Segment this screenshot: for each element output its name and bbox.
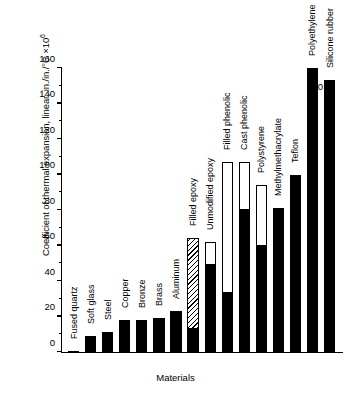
y-axis-tick-label: 160 [39, 54, 55, 64]
bar: Aluminum [170, 311, 181, 352]
bar-value-annotation: 300 [307, 82, 323, 92]
bar-label: Copper [120, 279, 129, 309]
bar: Filled phenolic [222, 162, 233, 352]
bar-label: Brass [154, 283, 163, 306]
bar-label: Polystyrene [257, 126, 266, 173]
bar: Polystyrene [256, 185, 267, 352]
bar: Steel [102, 332, 113, 352]
bar-solid-segment [307, 68, 318, 352]
y-axis-tick-label: 20 [44, 302, 55, 312]
bar-label: Filled epoxy [189, 178, 198, 226]
y-axis-tick-label: 80 [44, 196, 55, 206]
bar-series: Fused quartzSoft glassSteelCopperBronzeB… [62, 68, 343, 352]
bar-label: Soft glass [86, 285, 95, 325]
bar-solid-segment [290, 175, 301, 353]
bar: Fused quartz [68, 351, 79, 353]
bar: Silicone rubber300 [324, 80, 335, 352]
bar: Polyethylene [307, 68, 318, 352]
bar-solid-segment [170, 311, 181, 352]
bar-solid-segment [256, 246, 267, 353]
bar-label: Steel [103, 300, 112, 321]
bar-label: Aluminum [171, 259, 180, 299]
bar-solid-segment [102, 332, 113, 352]
bar: Soft glass [85, 336, 96, 352]
y-axis-tick-label: 100 [39, 160, 55, 170]
y-axis-tick-label: 40 [44, 267, 55, 277]
bar-solid-segment [187, 329, 198, 352]
y-axis-title-text: Coefficient of thermal expansion, linear… [40, 38, 51, 256]
bar: Brass [153, 318, 164, 352]
bar-label: Methylmethacrylate [274, 118, 283, 196]
bar-solid-segment [222, 293, 233, 352]
bar-solid-segment [68, 351, 79, 353]
bar-label: Cast phenolic [240, 96, 249, 151]
bar: Filled epoxy [187, 238, 198, 352]
y-axis-title-exponent: 6 [39, 34, 46, 38]
y-axis-tick-label: 140 [39, 89, 55, 99]
bar-label: Fused quartz [69, 286, 78, 339]
bar-range-segment [222, 162, 233, 293]
bar-range-segment [187, 238, 198, 329]
bar-range-segment [239, 162, 250, 210]
bar-solid-segment [205, 265, 216, 352]
bar: Copper [119, 320, 130, 352]
x-axis-title: Materials [0, 372, 351, 383]
thermal-expansion-bar-chart: Coefficient of thermal expansion, linear… [0, 0, 351, 398]
bar-solid-segment [136, 320, 147, 352]
bar-label: Unmodified epoxy [206, 158, 215, 230]
bar-label: Silicone rubber [325, 8, 334, 68]
bar-label: Polyethylene [308, 4, 317, 56]
bar-label: Filled phenolic [223, 93, 232, 151]
bar-solid-segment [273, 208, 284, 352]
plot-area: 020406080100120140160 Fused quartzSoft g… [62, 68, 343, 352]
bar-solid-segment [85, 336, 96, 352]
bar: Bronze [136, 320, 147, 352]
bar: Teflon [290, 175, 301, 353]
bar-solid-segment [239, 210, 250, 352]
bar-range-segment [256, 185, 267, 245]
bar-label: Teflon [291, 138, 300, 162]
bar-solid-segment [324, 80, 335, 352]
y-axis-tick-label: 120 [39, 125, 55, 135]
bar-solid-segment [153, 318, 164, 352]
bar-range-segment [205, 242, 216, 265]
bar-label: Bronze [137, 280, 146, 309]
y-axis-tick-label: 60 [44, 231, 55, 241]
bar: Cast phenolic [239, 162, 250, 352]
bar: Unmodified epoxy [205, 242, 216, 352]
bar: Methylmethacrylate [273, 208, 284, 352]
y-axis-title: Coefficient of thermal expansion, linear… [39, 0, 53, 290]
bar-solid-segment [119, 320, 130, 352]
y-axis-tick-label: 0 [50, 338, 55, 348]
